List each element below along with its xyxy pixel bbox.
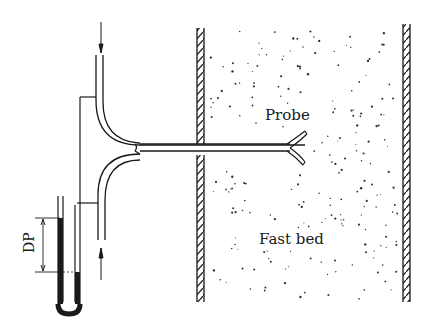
particle (231, 248, 233, 250)
particle (303, 201, 305, 203)
particle (212, 102, 213, 103)
particle (267, 250, 268, 251)
particle (341, 223, 342, 224)
particle (384, 280, 386, 282)
particle (340, 214, 341, 215)
particle (340, 219, 341, 220)
particle (332, 111, 334, 113)
particle (309, 30, 311, 32)
particle (394, 204, 396, 206)
particle (331, 161, 333, 163)
particle (342, 225, 343, 226)
particle (228, 191, 229, 192)
particle (340, 198, 342, 200)
particle (364, 289, 366, 291)
particle (232, 62, 234, 64)
dp-label: DP (21, 232, 37, 253)
left-wall (196, 28, 206, 302)
particle (290, 50, 291, 51)
particle (378, 51, 380, 53)
particle (274, 31, 276, 33)
particle (299, 68, 301, 70)
particle (384, 139, 386, 141)
particle (331, 214, 333, 216)
particle (222, 66, 223, 67)
particle (247, 63, 248, 64)
particle (242, 268, 244, 270)
particle (253, 82, 255, 84)
particle (355, 132, 356, 133)
particle (287, 88, 289, 90)
particle (360, 116, 362, 118)
particle (299, 91, 301, 93)
particle (377, 272, 379, 274)
particle (211, 116, 213, 118)
particle (321, 142, 323, 144)
particle (365, 75, 366, 76)
particle (302, 46, 303, 47)
particle (288, 266, 289, 267)
particle (325, 218, 326, 219)
particle (301, 206, 303, 208)
particle (329, 154, 331, 156)
particle (283, 56, 284, 57)
particle (327, 135, 329, 137)
particle (373, 257, 374, 258)
particle (365, 229, 366, 230)
particle (237, 249, 238, 250)
particle (363, 152, 365, 154)
particle (370, 163, 371, 164)
bed-particles (210, 30, 399, 299)
particle (383, 44, 385, 46)
particle (258, 43, 259, 44)
upper-fitting (80, 97, 96, 200)
particle (350, 47, 351, 48)
particle (337, 141, 338, 142)
particle (290, 251, 291, 252)
particle (264, 290, 266, 292)
particle (387, 146, 388, 147)
particle (264, 287, 266, 289)
particle (337, 64, 339, 66)
particle (332, 100, 333, 101)
particle (369, 58, 371, 60)
particle (376, 195, 377, 196)
outlet-arrow (99, 248, 103, 280)
particle (381, 98, 383, 100)
particle (299, 296, 301, 298)
particle (263, 251, 265, 253)
particle (378, 125, 380, 127)
particle (266, 54, 268, 56)
particle (385, 225, 386, 226)
particle (395, 244, 397, 246)
particle (320, 261, 321, 262)
particle (299, 174, 301, 176)
particle (232, 207, 234, 209)
particle (356, 150, 358, 152)
particle (282, 59, 284, 61)
fast-bed-label: Fast bed (259, 230, 324, 248)
particle (244, 200, 246, 202)
particle (242, 210, 244, 212)
particle (226, 282, 227, 283)
particle (252, 105, 254, 107)
particle (213, 269, 215, 271)
particle (358, 224, 360, 226)
particle (258, 54, 259, 55)
particle (256, 65, 258, 67)
particle (350, 109, 352, 111)
particle (318, 40, 320, 42)
particle (392, 187, 394, 189)
particle (282, 126, 284, 128)
particle (280, 96, 281, 97)
particle (346, 45, 347, 46)
particle (249, 212, 251, 214)
particle (231, 188, 233, 190)
particle (367, 60, 369, 62)
particle (334, 163, 336, 165)
particle (307, 73, 309, 75)
particle (343, 219, 345, 221)
particle (250, 288, 252, 290)
inlet-arrow (99, 22, 103, 53)
particle (274, 218, 276, 220)
